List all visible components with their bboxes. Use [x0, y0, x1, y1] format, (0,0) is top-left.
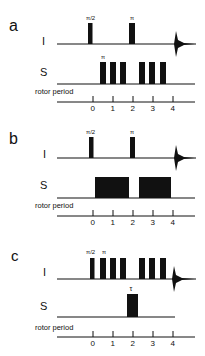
tick-label: 0 [91, 104, 96, 113]
i-pulse-pi [130, 137, 135, 158]
panel-letter: b [9, 130, 18, 147]
pulse-label: π [130, 129, 134, 135]
pulse-label: π/2 [86, 15, 96, 21]
panel-c: c I π/2 π S τ rotor period 0 1 2 3 4 [11, 247, 196, 348]
tick-label: 1 [111, 104, 116, 113]
i-pulse [139, 258, 145, 279]
panel-a: a I π/2 π S π rotor period 0 1 2 3 4 [9, 15, 196, 113]
tick-label: 0 [91, 218, 96, 227]
rotor-period-label: rotor period [35, 87, 73, 96]
s-pulse [110, 62, 116, 84]
s-continuous-irradiation-block [139, 177, 171, 198]
s-pulse [160, 62, 166, 84]
tick-label: 3 [151, 104, 156, 113]
pulse-label: π [101, 54, 105, 60]
pulse-sequence-diagram: a I π/2 π S π rotor period 0 1 2 3 4 [0, 0, 205, 356]
i-pulse [100, 258, 106, 279]
tick-label: 2 [131, 104, 136, 113]
channel-i-label: I [43, 148, 46, 160]
channel-i-label: I [43, 266, 46, 278]
pulse-label: π [130, 15, 134, 21]
i-pulse [120, 258, 126, 279]
channel-i-label: I [42, 35, 45, 47]
s-pulse [120, 62, 126, 84]
rotor-ticks [93, 210, 173, 216]
i-pulse-pi-half [89, 137, 94, 158]
s-pulse [139, 62, 145, 84]
tick-label: 4 [171, 339, 176, 348]
pulse-label: π [102, 249, 106, 255]
rotor-period-label: rotor period [35, 201, 73, 210]
tick-label: 4 [171, 218, 176, 227]
tick-label: 3 [151, 339, 156, 348]
s-pulse-tau [127, 294, 138, 317]
panel-letter: a [9, 17, 18, 34]
tick-label: 3 [151, 218, 156, 227]
rotor-period-label: rotor period [35, 323, 73, 332]
rotor-ticks [93, 96, 173, 102]
tick-label: 0 [91, 339, 96, 348]
s-pulse [100, 62, 106, 84]
tick-label: 1 [111, 339, 116, 348]
i-pulse [110, 258, 116, 279]
panel-letter: c [11, 247, 19, 264]
i-pulse [160, 258, 166, 279]
channel-s-label: S [40, 179, 47, 191]
pulse-label: π/2 [86, 129, 96, 135]
pulse-label: π/2 [86, 249, 96, 255]
i-pulse-pi-half [88, 23, 93, 44]
rotor-ticks [93, 331, 173, 337]
channel-s-label: S [40, 66, 47, 78]
tick-label: 4 [171, 104, 176, 113]
s-pulse [149, 62, 155, 84]
i-pulse-pi-half [90, 258, 95, 279]
tick-label: 2 [131, 218, 136, 227]
channel-s-label: S [40, 300, 47, 312]
i-pulse-pi [129, 23, 135, 44]
tick-label: 1 [111, 218, 116, 227]
panel-b: b I π/2 π S rotor period 0 1 2 3 4 [9, 129, 196, 227]
i-pulse [149, 258, 155, 279]
tick-label: 2 [131, 339, 136, 348]
s-continuous-irradiation-block [95, 177, 129, 198]
pulse-label: τ [130, 285, 133, 292]
